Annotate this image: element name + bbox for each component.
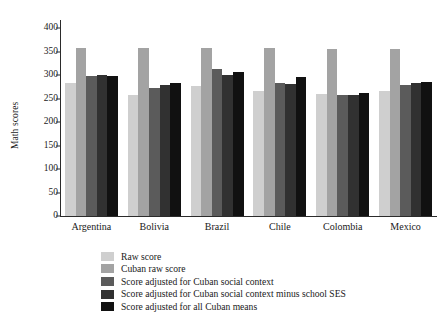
legend-swatch (101, 302, 114, 311)
bar-group (253, 20, 306, 216)
bar (128, 95, 139, 216)
bar (400, 85, 411, 216)
bar (264, 48, 275, 216)
bar (138, 48, 149, 216)
x-tick-label: Argentina (72, 221, 112, 232)
bar (421, 82, 432, 216)
x-tick-label: Mexico (390, 221, 421, 232)
bar-group (128, 20, 181, 216)
bar (170, 83, 181, 216)
y-axis-title: Math scores (6, 60, 24, 190)
bar (222, 75, 233, 216)
bar (253, 91, 264, 216)
bar-group (65, 20, 118, 216)
bar-group (316, 20, 369, 216)
math-scores-bar-chart: Math scores 050100150200250300350400 Arg… (0, 0, 447, 324)
bar (285, 84, 296, 216)
bar (160, 85, 171, 216)
y-tick-mark (56, 51, 60, 52)
legend-label: Score adjusted for Cuban social context (121, 277, 274, 287)
plot-area: Math scores 050100150200250300350400 Arg… (0, 0, 447, 245)
bar (337, 95, 348, 216)
y-tick-mark (56, 169, 60, 170)
x-tick-label: Colombia (323, 221, 362, 232)
legend-item: Cuban raw score (101, 263, 431, 276)
legend-swatch (101, 277, 114, 286)
legend-item: Score adjusted for all Cuban means (101, 300, 431, 313)
y-tick-mark (56, 122, 60, 123)
legend-item: Score adjusted for Cuban social context (101, 275, 431, 288)
bar (296, 77, 307, 216)
bar (97, 75, 108, 216)
bar (149, 88, 160, 216)
bar-group (379, 20, 432, 216)
legend-label: Score adjusted for all Cuban means (121, 302, 257, 312)
y-tick-mark (56, 192, 60, 193)
bar (359, 93, 370, 216)
legend-item: Raw score (101, 250, 431, 263)
bar (201, 48, 212, 216)
bar (390, 49, 401, 216)
x-axis-line (60, 216, 437, 217)
legend-label: Cuban raw score (121, 264, 185, 274)
bar (212, 69, 223, 216)
bar (411, 83, 422, 216)
bar-group (191, 20, 244, 216)
y-tick-mark (56, 98, 60, 99)
legend-item: Score adjusted for Cuban social context … (101, 288, 431, 301)
legend-swatch (101, 264, 114, 273)
y-tick-mark (56, 145, 60, 146)
bar (327, 49, 338, 216)
legend-swatch (101, 290, 114, 299)
legend-label: Raw score (121, 252, 161, 262)
x-tick-label: Brazil (205, 221, 229, 232)
bar (76, 48, 87, 216)
legend-swatch (101, 252, 114, 261)
bars-container (60, 20, 437, 216)
bar (191, 86, 202, 216)
legend-label: Score adjusted for Cuban social context … (121, 289, 346, 299)
bar (379, 91, 390, 216)
bar (316, 94, 327, 216)
bar (86, 76, 97, 216)
bar (275, 83, 286, 216)
x-tick-label: Chile (269, 221, 291, 232)
bar (233, 72, 244, 216)
x-tick-label: Bolivia (140, 221, 169, 232)
y-tick-mark (56, 75, 60, 76)
bar (107, 76, 118, 216)
bar (65, 83, 76, 216)
chart-legend: Raw scoreCuban raw scoreScore adjusted f… (101, 250, 431, 313)
y-tick-mark (56, 28, 60, 29)
bar (348, 95, 359, 216)
y-axis-tick-labels: 050100150200250300350400 (26, 0, 58, 245)
y-tick-mark (56, 216, 60, 217)
